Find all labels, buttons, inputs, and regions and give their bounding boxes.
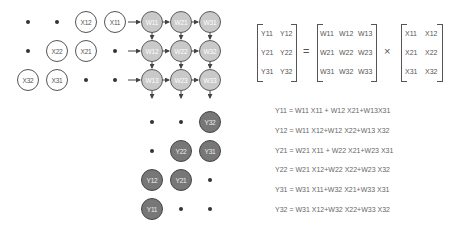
- empty-slot-dot: [26, 49, 30, 53]
- matrix-w-cell: W13: [358, 30, 372, 37]
- output-node-y31: Y31: [199, 140, 221, 162]
- times-sign: ×: [384, 45, 390, 57]
- matrix-y-cell: Y12: [280, 30, 292, 37]
- empty-slot-dot: [55, 20, 59, 24]
- matrix-y-cell: Y11: [261, 30, 273, 37]
- empty-slot-dot: [113, 78, 117, 82]
- input-node-x32: X32: [17, 69, 39, 91]
- input-node-x21: X21: [75, 40, 97, 62]
- matrix-x-cell: X22: [425, 49, 437, 56]
- weight-node-w32: W32: [199, 40, 221, 62]
- matrix-w-cell: W33: [358, 68, 372, 75]
- empty-slot-dot: [26, 20, 30, 24]
- matrix-x-cell: X21: [405, 49, 417, 56]
- equation-line: Y32 = W31 X12+W32 X22+W33 X32: [275, 206, 390, 213]
- matrix-w-cell: W23: [358, 49, 372, 56]
- matrix-w-cell: W12: [339, 30, 353, 37]
- output-node-y22: Y22: [170, 140, 192, 162]
- weight-node-w23: W23: [170, 69, 192, 91]
- equation-line: Y12 = W11 X12+W12 X22+W13 X32: [275, 127, 389, 134]
- matrix-x-cell: X12: [425, 30, 437, 37]
- matrix-w-cell: W11: [320, 30, 334, 37]
- dataflow-arrows: [0, 0, 459, 232]
- empty-slot-dot: [208, 178, 212, 182]
- weight-node-w13: W13: [141, 69, 163, 91]
- matrix-w-cell: W22: [339, 49, 353, 56]
- empty-slot-dot: [150, 149, 154, 153]
- matrix-y-cell: Y32: [280, 68, 292, 75]
- matrix-w-cell: W32: [339, 68, 353, 75]
- matrix-w-cell: W21: [320, 49, 334, 56]
- equals-sign: =: [303, 45, 309, 57]
- weight-node-w12: W12: [141, 40, 163, 62]
- weight-node-w11: W11: [141, 11, 163, 33]
- input-node-x11: X11: [104, 11, 126, 33]
- matrix-y-cell: Y21: [261, 49, 273, 56]
- empty-slot-dot: [179, 120, 183, 124]
- output-node-y12: Y12: [141, 169, 163, 191]
- equation-line: Y22 = W21 X12+W22 X22+W23 X32: [275, 166, 390, 173]
- matrix-x-cell: X31: [405, 68, 417, 75]
- output-node-y21: Y21: [170, 169, 192, 191]
- input-node-x12: X12: [75, 11, 97, 33]
- empty-slot-dot: [113, 49, 117, 53]
- empty-slot-dot: [179, 207, 183, 211]
- empty-slot-dot: [150, 120, 154, 124]
- weight-node-w21: W21: [170, 11, 192, 33]
- output-node-y32: Y32: [199, 111, 221, 133]
- equation-line: Y31 = W31 X11+W32 X21+W33 X31: [275, 186, 389, 193]
- output-node-y11: Y11: [141, 198, 163, 220]
- equation-line: Y21 = W21 X11 + W22 X21+W23 X31: [275, 147, 393, 154]
- matrix-w-cell: W31: [320, 68, 334, 75]
- equation-line: Y11 = W11 X11 + W12 X21+W13X31: [275, 107, 390, 114]
- empty-slot-dot: [84, 78, 88, 82]
- matrix-x-cell: X32: [425, 68, 437, 75]
- matrix-y-cell: Y31: [261, 68, 273, 75]
- weight-node-w22: W22: [170, 40, 192, 62]
- weight-node-w33: W33: [199, 69, 221, 91]
- matrix-y-cell: Y22: [280, 49, 292, 56]
- input-node-x22: X22: [46, 40, 68, 62]
- matrix-x-cell: X11: [405, 30, 417, 37]
- empty-slot-dot: [208, 207, 212, 211]
- input-node-x31: X31: [46, 69, 68, 91]
- weight-node-w31: W31: [199, 11, 221, 33]
